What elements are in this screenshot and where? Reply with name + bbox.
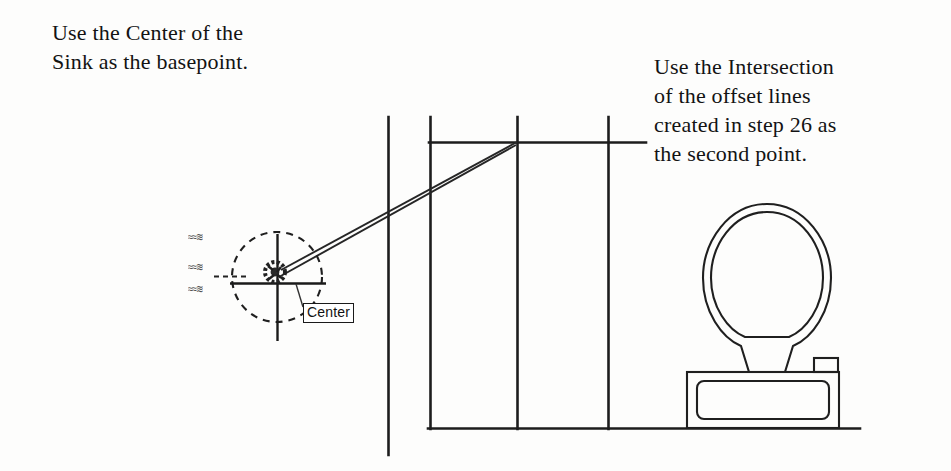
figure-canvas: Use the Center of the Sink as the basepo… xyxy=(0,0,951,471)
scan-smudge-top: ≈≈≋ xyxy=(188,233,228,260)
rubber-band-line-upper xyxy=(281,142,517,270)
rubber-band-line-lower xyxy=(279,145,516,277)
cad-drawing xyxy=(0,0,951,471)
toilet-fixture xyxy=(687,204,839,428)
center-snap-marker xyxy=(265,262,285,282)
osnap-tooltip: Center xyxy=(303,303,354,323)
crosshair-cursor xyxy=(230,234,326,341)
wall-offset-lines xyxy=(389,117,861,455)
scan-smudge-middle: ≈≈≋ xyxy=(188,263,228,285)
toilet-bowl-inner xyxy=(711,212,823,337)
tooltip-leader-line xyxy=(296,284,303,307)
toilet-flush-handle xyxy=(814,358,838,372)
rubber-band-preview xyxy=(279,142,517,277)
toilet-tank-inner xyxy=(697,381,829,419)
scan-smudge-bottom: ≈≈≋ xyxy=(188,285,228,312)
toilet-bowl-outer xyxy=(703,204,831,372)
